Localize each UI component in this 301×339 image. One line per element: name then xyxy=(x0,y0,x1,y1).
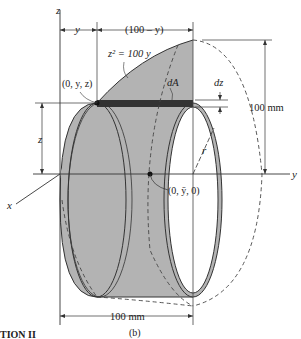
z-dimension-label: z xyxy=(37,133,43,145)
remaining-dimension-label: (100 – y) xyxy=(125,24,164,36)
z-axis-label: z xyxy=(55,4,61,16)
length-dimension-label: 100 mm xyxy=(110,311,145,322)
dA-strip xyxy=(97,100,193,107)
dz-label: dz xyxy=(214,77,223,88)
x-axis xyxy=(16,174,60,204)
figure-caption: (b) xyxy=(129,327,141,339)
point-label: (0, y, z) xyxy=(62,78,92,90)
height-dimension-label: 100 mm xyxy=(249,102,284,113)
x-axis-label: x xyxy=(6,199,12,211)
y-axis-label: y xyxy=(291,168,297,180)
equation-label: z² = 100 y xyxy=(107,48,151,59)
dA-label: dA xyxy=(167,77,179,88)
centroid-label: (0, ȳ, 0) xyxy=(168,185,200,197)
radius-label: r xyxy=(202,144,207,156)
solid-of-revolution-diagram: z y x y (100 – y) z² = 100 y (0, y, z) d… xyxy=(0,0,301,339)
partial-section-heading: TION II xyxy=(0,329,36,339)
y-dimension-label: y xyxy=(74,23,80,35)
